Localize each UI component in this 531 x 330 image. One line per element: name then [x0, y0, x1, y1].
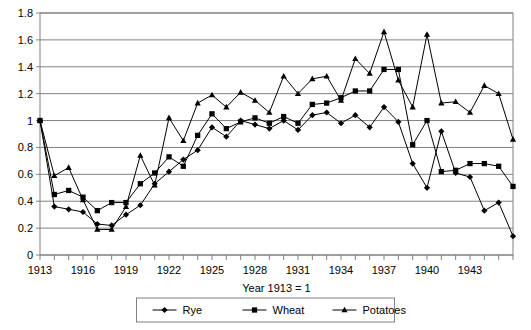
- marker-square: [195, 133, 200, 138]
- marker-square: [396, 67, 401, 72]
- marker-square: [496, 164, 501, 169]
- marker-square: [439, 169, 444, 174]
- marker-square: [367, 88, 372, 93]
- marker-square: [52, 192, 57, 197]
- marker-square: [224, 126, 229, 131]
- x-tick-label: 1922: [157, 264, 181, 276]
- x-tick-label: 1916: [71, 264, 95, 276]
- marker-square: [209, 111, 214, 116]
- marker-square: [109, 200, 114, 205]
- marker-square: [66, 188, 71, 193]
- y-tick-label: 1.6: [18, 34, 33, 46]
- y-tick-label: 0: [27, 249, 33, 261]
- x-tick-label: 1940: [415, 264, 439, 276]
- y-tick-label: 1: [27, 115, 33, 127]
- chart-background: [0, 0, 531, 330]
- x-tick-label: 1913: [28, 264, 52, 276]
- legend-label: Potatoes: [363, 304, 407, 316]
- x-tick-label: 1943: [458, 264, 482, 276]
- marker-square: [181, 164, 186, 169]
- marker-square: [310, 102, 315, 107]
- x-axis-label: Year 1913 = 1: [242, 282, 310, 294]
- y-tick-label: 1.8: [18, 7, 33, 19]
- line-chart: 00.20.40.60.811.21.41.61.819131916191919…: [0, 0, 531, 330]
- y-tick-label: 0.6: [18, 168, 33, 180]
- x-tick-label: 1925: [200, 264, 224, 276]
- marker-square: [95, 208, 100, 213]
- marker-square: [281, 114, 286, 119]
- marker-square: [252, 307, 257, 312]
- marker-square: [381, 67, 386, 72]
- x-tick-label: 1937: [372, 264, 396, 276]
- x-tick-label: 1934: [329, 264, 353, 276]
- marker-square: [252, 115, 257, 120]
- marker-square: [166, 154, 171, 159]
- y-tick-label: 0.4: [18, 195, 33, 207]
- marker-square: [424, 118, 429, 123]
- y-tick-label: 0.2: [18, 222, 33, 234]
- y-tick-label: 1.4: [18, 61, 33, 73]
- x-tick-label: 1928: [243, 264, 267, 276]
- marker-square: [482, 161, 487, 166]
- marker-square: [510, 184, 515, 189]
- x-tick-label: 1919: [114, 264, 138, 276]
- legend-label: Wheat: [273, 304, 305, 316]
- marker-square: [467, 161, 472, 166]
- y-tick-label: 0.8: [18, 141, 33, 153]
- marker-square: [324, 100, 329, 105]
- chart-container: 00.20.40.60.811.21.41.61.819131916191919…: [0, 0, 531, 330]
- marker-square: [453, 168, 458, 173]
- legend-label: Rye: [183, 304, 203, 316]
- marker-square: [138, 181, 143, 186]
- marker-square: [410, 142, 415, 147]
- marker-square: [295, 121, 300, 126]
- marker-square: [238, 119, 243, 124]
- marker-square: [267, 121, 272, 126]
- y-tick-label: 1.2: [18, 88, 33, 100]
- x-tick-label: 1931: [286, 264, 310, 276]
- marker-square: [353, 88, 358, 93]
